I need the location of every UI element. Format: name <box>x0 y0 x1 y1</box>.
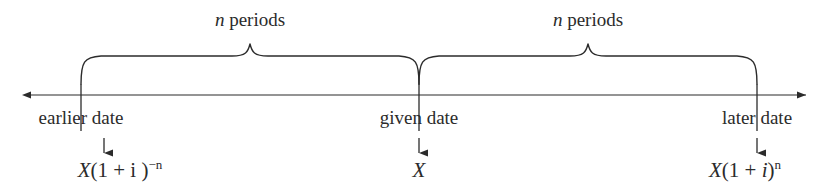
brace-left <box>81 44 419 84</box>
axis-label-later-date: later date <box>722 108 792 127</box>
future-value-formula: X(1 + i)n <box>709 160 781 181</box>
brace-caption-left-var: n <box>215 9 225 30</box>
formula-center-x: X <box>413 158 426 182</box>
present-value-formula: X(1 + i )−n <box>78 160 163 181</box>
axis-label-earlier-date: earlier date <box>39 108 124 127</box>
down-arrows <box>104 138 757 153</box>
formula-right-close: ) <box>768 158 775 182</box>
brace-right <box>419 44 757 84</box>
axis-label-given-date: given date <box>380 108 459 127</box>
given-value-formula: X <box>413 160 426 181</box>
brace-caption-right-word: periods <box>567 9 623 30</box>
formula-right-exponent: n <box>775 157 782 172</box>
formula-left-x: X <box>78 158 91 182</box>
formula-right-open: (1 + <box>722 158 762 182</box>
brace-caption-right-var: n <box>553 9 563 30</box>
brace-caption-left-word: periods <box>229 9 285 30</box>
formula-right-x: X <box>709 158 722 182</box>
formula-left-close: ) <box>136 158 148 182</box>
timeline-figure: n periods n periods earlier date given d… <box>0 0 836 190</box>
brace-caption-left: n periods <box>215 10 285 29</box>
brace-caption-right: n periods <box>553 10 623 29</box>
formula-left-exponent: −n <box>148 157 162 172</box>
formula-left-open: (1 + <box>91 158 131 182</box>
